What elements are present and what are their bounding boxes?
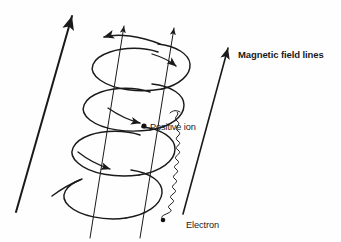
- magnetic-field-lines-label: Magnetic field lines: [238, 50, 324, 60]
- electron-dot: [161, 218, 166, 223]
- helix-turn-1-back: [158, 44, 190, 89]
- helix-turn-2-front: [83, 88, 150, 131]
- field-line-1: [16, 16, 72, 212]
- helix-top-tail: [104, 35, 160, 44]
- positive-ion-dot: [141, 123, 146, 128]
- diagram-canvas: [0, 0, 341, 242]
- helix-bottom-tail: [52, 180, 80, 196]
- helix-motion-arrow-mid: [108, 108, 140, 123]
- physics-diagram: Magnetic field lines Positive ion Electr…: [0, 0, 341, 242]
- helix-motion-arrow-top: [152, 54, 176, 66]
- electron-coil-cap: [170, 111, 180, 113]
- electron-label: Electron: [186, 221, 219, 230]
- positive-ion-label: Positive ion: [150, 123, 196, 132]
- helix-turn-4-front: [64, 179, 126, 219]
